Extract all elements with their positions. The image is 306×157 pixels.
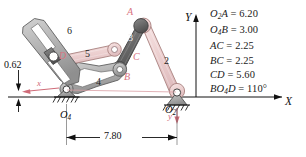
spec-O2A: O2A = 6.20 bbox=[210, 8, 267, 21]
point-label-B: B bbox=[124, 72, 130, 82]
spec-BC: BC = 2.25 bbox=[210, 55, 267, 66]
spec-AC-name: AC bbox=[210, 40, 224, 51]
spec-CD-value: 5.60 bbox=[236, 69, 255, 80]
local-axis-label-x: x bbox=[37, 79, 41, 88]
spec-BO4D: BO4D = 110° bbox=[210, 83, 267, 96]
point-label-O2-sub: 2 bbox=[173, 109, 177, 117]
link-number-2: 2 bbox=[164, 56, 169, 66]
mechanism-figure: A B C D O2 O4 2 3 4 5 6 Y X x y 0.62 7.8… bbox=[0, 0, 306, 157]
spec-O4B-name2: B bbox=[221, 24, 228, 35]
spec-O4B-value: 3.00 bbox=[239, 24, 258, 35]
spec-BC-name: BC bbox=[210, 55, 224, 66]
point-label-D: D bbox=[59, 51, 66, 61]
spec-BO4D-eq: = bbox=[238, 83, 244, 94]
spec-AC-eq: = bbox=[226, 40, 232, 51]
spec-BO4D-name2: D bbox=[228, 83, 236, 94]
dimension-label-7-80: 7.80 bbox=[104, 131, 122, 141]
point-label-O4-sub: 4 bbox=[68, 114, 72, 122]
spec-CD: CD = 5.60 bbox=[210, 69, 267, 80]
spec-BO4D-name: BO bbox=[210, 83, 224, 94]
spec-list: O2A = 6.20 O4B = 3.00 AC = 2.25 BC = 2.2… bbox=[210, 8, 267, 96]
point-label-C: C bbox=[133, 52, 140, 62]
dimension-label-0-62: 0.62 bbox=[4, 60, 22, 70]
link-number-5: 5 bbox=[85, 49, 90, 59]
spec-O4B-eq: = bbox=[231, 24, 237, 35]
spec-AC: AC = 2.25 bbox=[210, 40, 267, 51]
point-label-O4: O4 bbox=[60, 110, 71, 122]
spec-BO4D-value: 110° bbox=[247, 83, 267, 94]
dimension-vertical-0-62 bbox=[10, 70, 60, 112]
local-axis-label-y: y bbox=[168, 112, 172, 121]
spec-O2A-eq: = bbox=[230, 8, 236, 19]
local-axis-x-O4 bbox=[22, 88, 59, 94]
spec-CD-eq: = bbox=[228, 69, 234, 80]
point-label-O4-letter: O bbox=[60, 109, 68, 120]
spec-O2A-name: O bbox=[210, 8, 218, 19]
spec-BC-eq: = bbox=[226, 55, 232, 66]
axis-label-Y: Y bbox=[185, 12, 191, 24]
spec-O2A-value: 6.20 bbox=[239, 8, 258, 19]
spec-BC-value: 2.25 bbox=[235, 55, 254, 66]
link-number-3: 3 bbox=[128, 33, 133, 43]
spec-O4B-name: O bbox=[210, 24, 218, 35]
spec-O2A-name2: A bbox=[221, 8, 227, 19]
spec-AC-value: 2.25 bbox=[235, 40, 254, 51]
spec-O4B: O4B = 3.00 bbox=[210, 24, 267, 37]
link-number-6: 6 bbox=[67, 26, 72, 36]
link-number-4: 4 bbox=[96, 77, 101, 87]
spec-CD-name: CD bbox=[210, 69, 225, 80]
axis-label-X: X bbox=[285, 96, 292, 108]
dimension-horizontal-7-80 bbox=[67, 104, 178, 145]
point-label-A: A bbox=[127, 7, 133, 17]
